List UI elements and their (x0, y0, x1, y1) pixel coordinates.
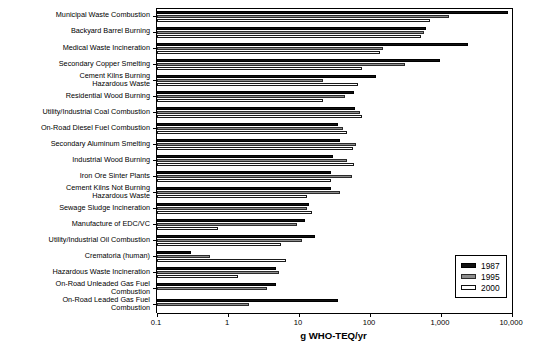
chart-legend: 1987 1995 2000 (455, 255, 507, 298)
category-tick (153, 16, 157, 17)
legend-swatch-2000 (461, 285, 476, 290)
bar-group (157, 155, 512, 166)
bar-1995 (157, 47, 383, 50)
bar-group (157, 219, 512, 230)
legend-swatch-1995 (461, 274, 476, 279)
legend-label-1987: 1987 (481, 261, 500, 271)
category-label: Cement Kilns Burning Hazardous Waste (2, 72, 150, 88)
bar-1987 (157, 43, 468, 46)
x-axis-title: g WHO-TEQ/yr (156, 330, 511, 341)
bar-2000 (157, 115, 362, 118)
bar-2000 (157, 227, 218, 230)
bar-1987 (157, 27, 426, 30)
category-tick (153, 32, 157, 33)
x-axis-tick-label: 10 (294, 318, 302, 327)
bar-1995 (157, 239, 302, 242)
bar-1987 (157, 235, 315, 238)
category-tick (153, 96, 157, 97)
bar-2000 (157, 131, 347, 134)
bar-group (157, 11, 512, 22)
bar-1995 (157, 255, 210, 258)
category-tick (153, 208, 157, 209)
bar-1995 (157, 15, 449, 18)
bar-2000 (157, 67, 362, 70)
bar-group (157, 187, 512, 198)
category-label: On-Road Unleaded Gas Fuel Combustion (2, 280, 150, 296)
x-axis-tick-label: 1 (225, 318, 229, 327)
category-tick (153, 112, 157, 113)
category-tick (153, 64, 157, 65)
bar-group (157, 235, 512, 246)
bar-2000 (157, 243, 281, 246)
bar-1995 (157, 271, 279, 274)
bar-group (157, 139, 512, 150)
category-label: Secondary Copper Smelting (2, 60, 150, 68)
category-tick (153, 256, 157, 257)
bar-group (157, 59, 512, 70)
category-label: Cement Kilns Not Burning Hazardous Waste (2, 184, 150, 200)
bar-group (157, 27, 512, 38)
bar-group (157, 123, 512, 134)
category-label: Crematoria (human) (2, 252, 150, 260)
bar-1987 (157, 203, 309, 206)
bar-2000 (157, 19, 430, 22)
bar-1995 (157, 63, 405, 66)
x-axis-tick-label: 0.1 (151, 318, 162, 327)
bar-2000 (157, 179, 331, 182)
category-tick (153, 128, 157, 129)
bar-1987 (157, 251, 191, 254)
bar-1995 (157, 95, 345, 98)
bar-1995 (157, 143, 356, 146)
bar-group (157, 299, 512, 310)
bar-2000 (157, 35, 421, 38)
category-label: Industrial Wood Burning (2, 156, 150, 164)
category-label: Utility/Industrial Oil Combustion (2, 236, 150, 244)
bar-2000 (157, 99, 323, 102)
category-label: Sewage Sludge Incineration (2, 204, 150, 212)
category-label: On-Road Diesel Fuel Combustion (2, 124, 150, 132)
legend-label-2000: 2000 (481, 283, 500, 293)
bar-1987 (157, 171, 331, 174)
category-label: Backyard Barrel Burning (2, 27, 150, 35)
bar-1995 (157, 79, 323, 82)
bar-1987 (157, 91, 354, 94)
bar-1995 (157, 223, 297, 226)
bar-1987 (157, 187, 331, 190)
bar-1995 (157, 175, 352, 178)
x-axis-tick-label: 1,000 (430, 318, 449, 327)
bar-group (157, 75, 512, 86)
category-tick (153, 240, 157, 241)
category-tick (153, 144, 157, 145)
bar-1995 (157, 303, 249, 306)
category-tick (153, 272, 157, 273)
bar-1987 (157, 283, 276, 286)
category-tick (153, 48, 157, 49)
bar-1987 (157, 11, 508, 14)
bar-2000 (157, 259, 286, 262)
x-axis-tick-label: 100 (363, 318, 376, 327)
x-axis-tick (512, 313, 513, 317)
bar-1987 (157, 139, 340, 142)
bar-1987 (157, 107, 355, 110)
bar-2000 (157, 147, 353, 150)
category-label: Hazardous Waste Incineration (2, 268, 150, 276)
bar-1995 (157, 111, 360, 114)
x-axis-line (157, 313, 512, 314)
bar-group (157, 107, 512, 118)
bar-2000 (157, 275, 238, 278)
plot-border-right (512, 8, 513, 314)
category-label: Municipal Waste Combustion (2, 11, 150, 19)
category-label: Residential Wood Burning (2, 92, 150, 100)
bar-1995 (157, 287, 267, 290)
dioxin-emissions-bar-chart: Municipal Waste CombustionBackyard Barre… (0, 0, 544, 363)
bar-1987 (157, 155, 333, 158)
category-tick (153, 80, 157, 81)
category-tick (153, 224, 157, 225)
bar-1995 (157, 207, 307, 210)
bar-2000 (157, 195, 307, 198)
legend-swatch-1987 (461, 263, 476, 268)
bar-1987 (157, 267, 276, 270)
legend-item-1987: 1987 (461, 260, 500, 271)
bar-group (157, 203, 512, 214)
category-label: Utility/Industrial Coal Combustion (2, 108, 150, 116)
